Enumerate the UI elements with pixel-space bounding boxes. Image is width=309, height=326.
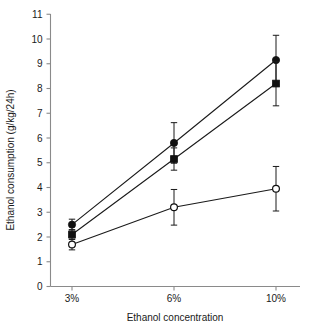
y-axis-title: Ethanol consumption (g/kg/24h) <box>5 89 16 230</box>
y-tick-label: 4 <box>37 182 43 193</box>
x-axis-title: Ethanol concentration <box>127 312 224 323</box>
y-tick-label: 7 <box>37 108 43 119</box>
svg-text:Ethanol concentration: Ethanol concentration <box>127 312 224 323</box>
chart-background <box>0 0 309 326</box>
y-tick-label: 5 <box>37 157 43 168</box>
x-tick-label: 3% <box>65 293 80 304</box>
data-point-open-circle <box>273 185 280 192</box>
svg-text:Ethanol consumption (g/kg/24h): Ethanol consumption (g/kg/24h) <box>5 89 16 230</box>
data-point-open-circle <box>69 241 76 248</box>
y-tick-label: 10 <box>31 34 43 45</box>
y-tick-label: 11 <box>32 9 43 20</box>
data-point-filled-square <box>69 231 76 238</box>
data-point-filled-circle <box>68 221 75 228</box>
data-point-filled-square <box>171 156 178 163</box>
y-tick-label: 3 <box>37 207 43 218</box>
y-tick-label: 6 <box>37 133 43 144</box>
y-tick-label: 2 <box>37 232 43 243</box>
y-tick-label: 8 <box>37 83 43 94</box>
chart-figure: 01234567891011 3%6%10% Ethanol concentra… <box>0 0 309 326</box>
y-tick-label: 1 <box>37 256 43 267</box>
data-point-filled-circle <box>170 139 177 146</box>
data-point-open-circle <box>171 204 178 211</box>
data-point-filled-square <box>273 80 280 87</box>
line-chart: 01234567891011 3%6%10% Ethanol concentra… <box>0 0 309 326</box>
x-tick-label: 6% <box>167 293 182 304</box>
y-tick-label: 9 <box>37 58 43 69</box>
y-tick-label: 0 <box>37 281 43 292</box>
x-tick-label: 10% <box>266 293 286 304</box>
